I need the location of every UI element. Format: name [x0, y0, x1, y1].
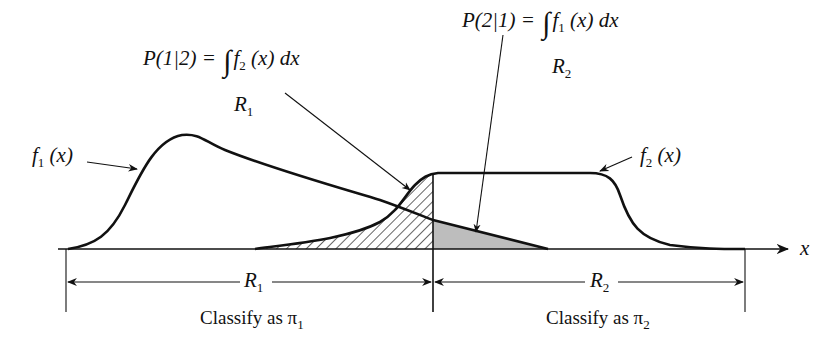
p21-rest: (x) dx: [570, 8, 618, 32]
r1-name: R: [244, 268, 257, 292]
f1-label: f1 (x): [32, 143, 73, 171]
f1-sub: 1: [38, 155, 45, 170]
r2-sub: 2: [603, 280, 610, 295]
r2-label: R2: [590, 268, 609, 296]
p12-fn-sub: 2: [239, 58, 246, 73]
r1-sub: 1: [257, 280, 264, 295]
classify-pi1-text: Classify as π: [200, 307, 297, 328]
p12-pointer: [285, 93, 410, 190]
f2-pointer: [600, 157, 632, 171]
p21-fn-sub: 1: [558, 20, 565, 35]
p12-region-name: R: [234, 92, 247, 116]
p21-region-name: R: [552, 54, 565, 78]
p21-region: R2: [552, 54, 571, 82]
p12-rest: (x) dx: [251, 46, 299, 70]
f1-arg: (x): [50, 143, 73, 167]
r2-name: R: [590, 268, 603, 292]
p12-lhs: P(1|2) =: [143, 46, 216, 70]
classify-pi1-label: Classify as π1: [200, 307, 304, 333]
classify-pi1-sub: 1: [297, 317, 304, 332]
x-axis-label: x: [800, 236, 809, 261]
integral-sign: ∫: [223, 44, 231, 77]
p21-region-sub: 2: [565, 66, 572, 81]
classify-pi2-label: Classify as π2: [546, 307, 650, 333]
diagram-graphics: [0, 0, 826, 347]
f2-sub: 2: [646, 155, 653, 170]
p21-pointer: [476, 35, 503, 232]
p12-region: R1: [234, 92, 253, 120]
r1-label: R1: [244, 268, 263, 296]
integral-sign: ∫: [542, 6, 550, 39]
p12-formula: P(1|2) = ∫f2 (x) dx: [143, 44, 299, 78]
p21-lhs: P(2|1) =: [462, 8, 535, 32]
classification-diagram: P(1|2) = ∫f2 (x) dx R1 P(2|1) = ∫f1 (x) …: [0, 0, 826, 347]
f1-pointer: [87, 162, 137, 169]
p12-region-sub: 1: [247, 104, 254, 119]
f2-label: f2 (x): [640, 143, 681, 171]
f2-arg: (x): [658, 143, 681, 167]
p21-formula: P(2|1) = ∫f1 (x) dx: [462, 6, 618, 40]
classify-pi2-text: Classify as π: [546, 307, 643, 328]
classify-pi2-sub: 2: [643, 317, 650, 332]
